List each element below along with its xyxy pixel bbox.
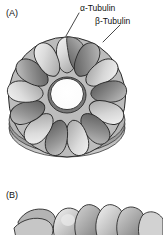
panel-b-lobe: [138, 212, 163, 235]
panel-a-label: (A): [6, 8, 18, 18]
leader-line-beta: [103, 25, 120, 42]
ring-center-hole: [51, 79, 84, 110]
panel-b-illustration: [14, 205, 163, 235]
leader-line-alpha: [66, 13, 79, 36]
illustration: [0, 0, 163, 235]
alpha-tubulin-label: α-Tubulin: [80, 3, 115, 13]
beta-tubulin-label: β-Tubulin: [95, 16, 130, 26]
figure-canvas: (A) (B) α-Tubulin β-Tubulin: [0, 0, 163, 235]
panel-b-label: (B): [6, 190, 18, 200]
